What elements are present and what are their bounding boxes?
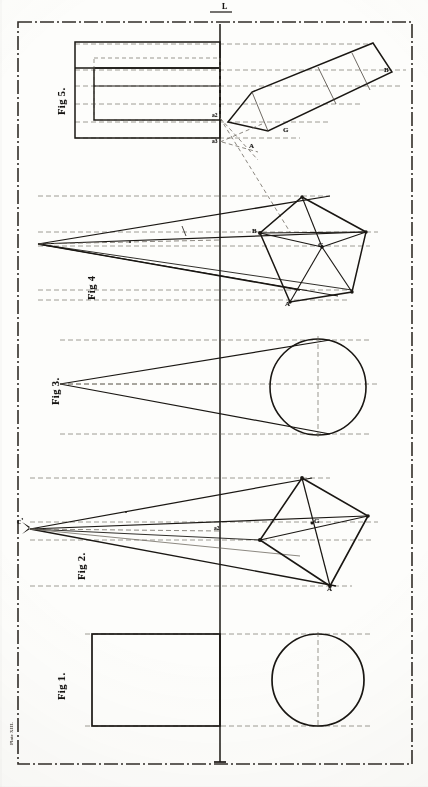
point-label-G-fig2: G [314, 517, 319, 525]
fig2-quadrilateral [258, 476, 370, 588]
fig4-label: Fig 4 [86, 276, 97, 300]
fig1-plan-circle [272, 632, 364, 728]
fig5-tilted-rectangle [228, 43, 392, 131]
fig5-elevation-rectangles [75, 42, 220, 138]
fig3-converging-rays [60, 340, 330, 434]
plate-edge-note: Plate XIII. [9, 722, 14, 745]
fig3-circle [270, 336, 366, 438]
plate-artwork [0, 0, 428, 787]
drawing-plate: Fig 5. Fig 4 Fig 3. Fig 2. Fig 1. L c' a… [0, 0, 428, 787]
fig4-pentagon [258, 195, 368, 303]
axis-label-L: L [222, 2, 227, 11]
fig1-label: Fig 1. [56, 673, 67, 700]
point-label-G-fig4: G [318, 241, 323, 249]
fig5-label: Fig 5. [56, 88, 67, 115]
fig2-converging-rays [22, 478, 366, 586]
point-label-B-fig4: B [252, 227, 257, 235]
fig2-label: Fig 2. [76, 553, 87, 580]
point-label-a2-fig2: a2 [214, 525, 220, 531]
point-label-A-fig4: A [285, 300, 290, 308]
plate-border [18, 22, 412, 764]
vertical-axis-line [210, 12, 232, 762]
projection-lines [30, 44, 406, 726]
point-label-B-fig5: B [384, 66, 389, 74]
point-label-A-fig5: A [249, 142, 254, 150]
point-label-a2-fig5: a2 [212, 112, 218, 118]
fig4-fig5-construction-rays [220, 118, 290, 232]
point-label-A-fig2: A [327, 585, 332, 593]
point-label-a3-fig5: a3 [212, 138, 218, 144]
point-label-G-fig5: G [283, 126, 288, 134]
fig3-label: Fig 3. [50, 378, 61, 405]
vanishing-point-label-c2: c' [17, 516, 24, 526]
fig1-elevation-rectangle [92, 634, 220, 726]
